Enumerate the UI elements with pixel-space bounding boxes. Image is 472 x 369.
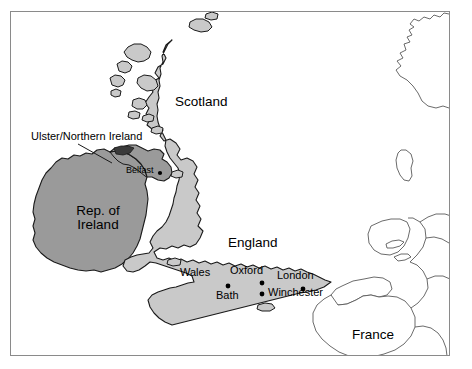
- city-label-london: London: [277, 270, 314, 282]
- anglesey-group: [167, 258, 181, 266]
- german-east-line: [426, 237, 449, 243]
- german-north-border: [408, 218, 426, 262]
- city-dot-oxford: [260, 281, 265, 286]
- germany-border-line: [427, 276, 450, 279]
- region-label-line-1: Rep. of: [70, 204, 126, 218]
- anglesey-shape: [167, 258, 181, 266]
- city-dot-winchester: [260, 292, 265, 297]
- city-dot-belfast: [158, 171, 162, 175]
- frisian-island-b: [394, 254, 411, 261]
- norway-coast-shape: [396, 12, 451, 108]
- continental-europe-outlines: [313, 12, 451, 358]
- barra-island: [111, 89, 121, 97]
- region-label-line-2: Ireland: [70, 218, 126, 232]
- isle-of-man: [171, 170, 183, 178]
- region-label-england: England: [228, 236, 278, 250]
- jura-island: [142, 114, 154, 122]
- skye-island: [137, 75, 158, 91]
- isle-of-wight: [257, 303, 275, 311]
- city-label-oxford: Oxford: [230, 265, 263, 277]
- outer-hebrides-north: [124, 44, 151, 62]
- southeast-border-line: [415, 326, 447, 356]
- city-label-belfast: Belfast: [126, 166, 154, 175]
- region-label-ulster-northern-ireland: Ulster/Northern Ireland: [31, 131, 142, 143]
- mull-island: [132, 98, 147, 109]
- region-label-scotland: Scotland: [175, 95, 228, 109]
- netherlands-shape: [368, 219, 410, 255]
- region-label-republic-of-ireland: Rep. of Ireland: [70, 204, 126, 232]
- city-label-bath: Bath: [216, 290, 239, 302]
- map-graphic: [0, 0, 472, 369]
- islay-island: [128, 111, 140, 119]
- city-dot-bath: [226, 284, 231, 289]
- jutland-shape: [396, 150, 413, 181]
- region-label-france: France: [352, 328, 394, 342]
- outer-hebrides-south: [110, 75, 125, 87]
- city-label-winchester: Winchester: [268, 287, 323, 299]
- eastern-border-line: [410, 262, 428, 308]
- german-north-line: [420, 214, 451, 222]
- outer-hebrides-mid: [117, 61, 132, 73]
- orkney-islands: [189, 19, 212, 32]
- map-figure: Scotland England Wales Rep. of Ireland U…: [0, 0, 472, 369]
- region-label-wales: Wales: [180, 267, 210, 279]
- shetland-islands: [205, 12, 218, 20]
